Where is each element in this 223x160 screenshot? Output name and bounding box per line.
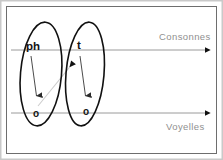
segment-label-vowel-2: o [83,106,89,117]
diagram-canvas: Consonnes Voyelles ph o t o [0,0,223,160]
diagram-svg: Consonnes Voyelles ph o t o [0,0,223,160]
tier-label-consonnes: Consonnes [159,31,211,42]
tier-label-voyelles: Voyelles [166,121,205,132]
segment-label-vowel-1: o [33,108,39,119]
segment-label-consonant-1: ph [26,40,40,52]
segment-label-consonant-2: t [77,39,81,51]
